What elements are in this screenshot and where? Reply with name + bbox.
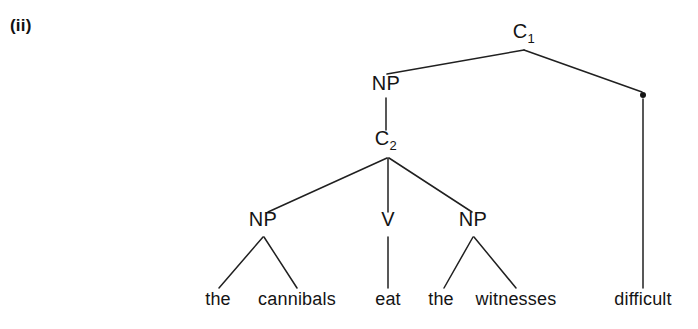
tree-branch-c1-to-np_top [387, 50, 524, 74]
tree-leaf-leaf_the1: the [205, 289, 231, 309]
tree-node-v: V [381, 208, 395, 230]
tree-node-c1: C1 [513, 20, 535, 46]
tree-node-np_subj: NP [249, 208, 277, 230]
tree-node-subscript: 2 [390, 138, 398, 153]
tree-nodes-group: C1NPC2NPVNP [249, 20, 646, 230]
tree-node-pred_dot [640, 92, 646, 98]
tree-node-subscript: 1 [528, 31, 536, 46]
tree-node-label: C [513, 20, 528, 42]
tree-leaf-leaf_cannibals: cannibals [258, 289, 336, 309]
tree-branch-np_obj-to-leaf_the2 [444, 237, 473, 288]
tree-leaves-group: thecannibalseatthewitnessesdifficult [205, 289, 672, 309]
tree-node-c2: C2 [375, 127, 397, 153]
syntax-tree-diagram: C1NPC2NPVNP thecannibalseatthewitnessesd… [0, 0, 698, 329]
tree-branch-np_subj-to-leaf_cannibals [264, 237, 297, 288]
tree-branch-np_subj-to-leaf_the1 [219, 237, 263, 288]
tree-leaf-leaf_the2: the [428, 289, 454, 309]
tree-node-label: NP [459, 208, 487, 230]
tree-edges-group [219, 50, 643, 288]
tree-node-label: NP [249, 208, 277, 230]
tree-leaf-leaf_witnesses: witnesses [475, 289, 557, 309]
tree-node-label: V [381, 208, 395, 230]
tree-branch-np_obj-to-leaf_witnesses [474, 237, 516, 288]
tree-branch-c2-to-np_obj [389, 158, 472, 212]
tree-branch-c1-to-pred_dot [524, 50, 642, 92]
tree-node-np_obj: NP [459, 208, 487, 230]
tree-leaf-leaf_eat: eat [375, 289, 401, 309]
tree-branch-c2-to-np_subj [268, 158, 387, 212]
tree-node-label: C [375, 127, 390, 149]
syntax-tree-figure: (ii) C1NPC2NPVNP thecannibalseatthewitne… [0, 0, 698, 329]
tree-node-label: NP [372, 72, 400, 94]
tree-node-np_top: NP [372, 72, 400, 94]
tree-leaf-leaf_difficult: difficult [614, 289, 672, 309]
